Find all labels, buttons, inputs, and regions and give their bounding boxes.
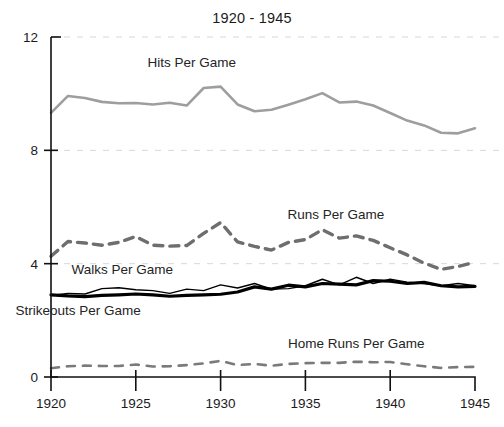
data-series-group: [51, 87, 475, 369]
series-label-runs-per-game: Runs Per Game: [288, 207, 385, 222]
y-tick-label-8: 8: [30, 143, 38, 158]
y-tick-label-4: 4: [30, 257, 38, 272]
x-tick-label-1935: 1935: [290, 396, 320, 411]
series-label-hits-per-game: Hits Per Game: [148, 55, 237, 70]
y-tick-label-12: 12: [23, 30, 38, 45]
gridlines: [51, 37, 503, 264]
series-line-home-runs-per-game: [51, 361, 475, 368]
y-tick-label-0: 0: [30, 370, 38, 385]
chart-container: 1920 - 1945 04812 1920192519301935194019…: [0, 0, 504, 427]
x-tick-label-1940: 1940: [375, 396, 405, 411]
series-label-home-runs-per-game: Home Runs Per Game: [288, 336, 425, 351]
series-line-hits-per-game: [51, 87, 475, 134]
series-label-walks-per-game: Walks Per Game: [71, 262, 173, 277]
series-line-walks-per-game: [51, 277, 475, 295]
x-tick-label-1925: 1925: [121, 396, 151, 411]
x-axis-tick-labels: 192019251930193519401945: [36, 396, 490, 411]
series-annotations: Hits Per GameRuns Per GameWalks Per Game…: [15, 55, 424, 351]
chart-plot-area: 04812 192019251930193519401945 Hits Per …: [0, 0, 504, 427]
y-axis-tick-labels: 04812: [23, 30, 39, 385]
x-tick-label-1930: 1930: [206, 396, 236, 411]
x-tick-label-1920: 1920: [36, 396, 66, 411]
x-tick-label-1945: 1945: [460, 396, 490, 411]
series-label-strikeouts-per-game: Strikeouts Per Game: [15, 303, 140, 318]
